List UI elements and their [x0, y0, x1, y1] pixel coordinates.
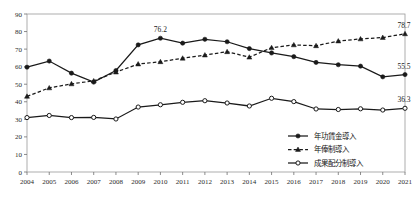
data-point-marker [403, 106, 407, 110]
data-point-marker [314, 60, 318, 64]
y-axis-tick-label: 20 [15, 133, 23, 141]
data-point-marker [158, 103, 162, 107]
data-point-marker [292, 100, 296, 104]
data-point-marker [225, 40, 229, 44]
x-axis-tick-label: 2014 [242, 178, 257, 186]
data-point-marker [225, 101, 229, 105]
y-axis-tick-label: 90 [15, 11, 23, 19]
data-point-marker [247, 104, 251, 108]
data-point-marker [25, 115, 29, 119]
x-axis-tick-label: 2005 [42, 178, 57, 186]
data-point-marker [181, 100, 185, 104]
legend-label-1: 年功賃金導入 [314, 131, 357, 141]
data-point-marker [203, 37, 207, 41]
data-point-marker [358, 107, 362, 111]
data-point-marker [247, 46, 251, 50]
x-axis-tick-label: 2008 [109, 178, 124, 186]
data-point-marker [403, 31, 408, 35]
y-axis-tick-label: 10 [15, 151, 23, 159]
y-axis-tick-label: 40 [15, 98, 23, 106]
x-axis-tick-label: 2012 [198, 178, 213, 186]
data-point-marker [136, 43, 140, 47]
series-line-1 [27, 38, 405, 82]
x-axis-tick-label: 2019 [354, 178, 369, 186]
data-point-marker [269, 96, 273, 100]
x-axis-tick-label: 2021 [398, 178, 413, 186]
data-point-marker [203, 99, 207, 103]
y-axis-tick-label: 60 [15, 63, 23, 71]
x-axis-tick-label: 2017 [309, 178, 324, 186]
data-point-marker [47, 59, 51, 63]
y-axis-tick-label: 80 [15, 28, 23, 36]
data-point-marker [69, 71, 73, 75]
data-label: 78.7 [397, 21, 410, 30]
legend-label-2: 年俸制導入 [314, 144, 350, 154]
data-point-marker [403, 72, 407, 76]
legend-label-3: 成果配分制導入 [314, 158, 364, 168]
x-axis-tick-label: 2016 [287, 178, 302, 186]
y-axis-tick-label: 50 [15, 81, 23, 89]
data-label: 55.5 [397, 62, 410, 71]
data-point-marker [136, 105, 140, 109]
data-label: 76.2 [154, 25, 167, 34]
data-point-marker [69, 115, 73, 119]
x-axis-tick-label: 2010 [153, 178, 168, 186]
data-point-marker [47, 113, 51, 117]
series-line-3 [27, 98, 405, 119]
y-axis-tick-label: 70 [15, 46, 23, 54]
line-chart: 0102030405060708090200420052006200720082… [0, 0, 414, 206]
x-axis-tick-label: 2011 [176, 178, 190, 186]
data-point-marker [292, 55, 296, 59]
x-axis-tick-label: 2018 [331, 178, 346, 186]
x-axis-tick-label: 2020 [376, 178, 391, 186]
data-point-marker [136, 62, 141, 66]
chart-canvas: 0102030405060708090200420052006200720082… [0, 0, 414, 206]
legend-marker-filled-circle [296, 134, 300, 138]
y-axis-tick-label: 30 [15, 116, 23, 124]
x-axis-tick-label: 2006 [64, 178, 79, 186]
data-point-marker [25, 65, 29, 69]
data-point-marker [269, 51, 273, 55]
data-point-marker [336, 63, 340, 67]
data-point-marker [158, 36, 162, 40]
data-point-marker [358, 64, 362, 68]
data-point-marker [181, 41, 185, 45]
data-point-marker [336, 107, 340, 111]
data-point-marker [269, 45, 274, 49]
x-axis-tick-label: 2004 [20, 178, 35, 186]
data-point-marker [381, 75, 385, 79]
y-axis-tick-label: 0 [19, 169, 23, 177]
legend-marker-open-circle [296, 161, 300, 165]
x-axis-tick-label: 2013 [220, 178, 235, 186]
data-point-marker [92, 115, 96, 119]
x-axis-tick-label: 2009 [131, 178, 146, 186]
data-point-marker [225, 49, 230, 53]
x-axis-tick-label: 2007 [87, 178, 102, 186]
data-point-marker [381, 108, 385, 112]
data-point-marker [114, 117, 118, 121]
data-label: 36.3 [397, 95, 410, 104]
data-point-marker [314, 107, 318, 111]
x-axis-tick-label: 2015 [265, 178, 280, 186]
